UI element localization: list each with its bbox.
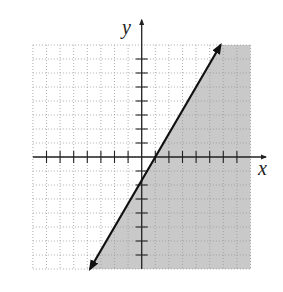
inequality-graph: y x	[0, 0, 283, 292]
x-axis-label: x	[257, 157, 267, 179]
y-axis-label: y	[120, 16, 131, 39]
